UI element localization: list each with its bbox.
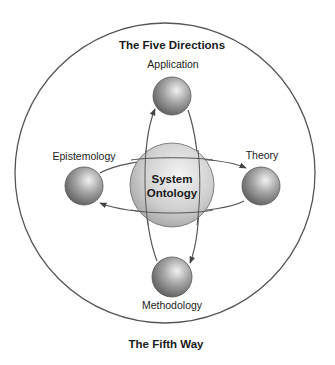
theory-sphere <box>242 167 280 205</box>
methodology-sphere <box>152 257 192 297</box>
top-title: The Five Directions <box>119 39 225 51</box>
theory-label: Theory <box>246 149 279 161</box>
center-label-line1: System <box>147 172 197 186</box>
center-label-line2: Ontology <box>147 186 197 200</box>
application-sphere <box>153 77 191 115</box>
epistemology-label: Epistemology <box>52 150 115 162</box>
methodology-label: Methodology <box>142 299 202 311</box>
epistemology-sphere <box>65 167 103 205</box>
application-label: Application <box>147 58 198 70</box>
bottom-title: The Fifth Way <box>129 338 204 350</box>
system-ontology-label: System Ontology <box>147 172 197 200</box>
